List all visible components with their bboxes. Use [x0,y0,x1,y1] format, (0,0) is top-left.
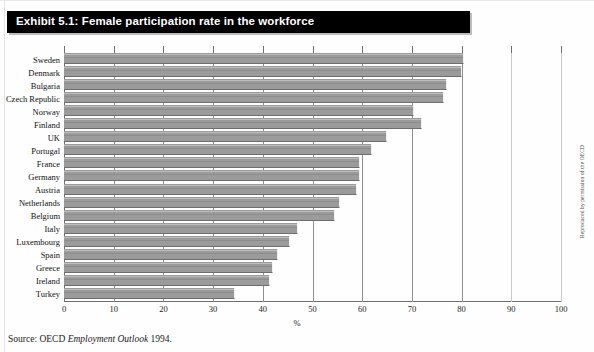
bar-shade [64,148,371,149]
bar-highlight [64,145,371,146]
x-tick-label-10: 10 [109,304,118,314]
bar-shade [64,135,386,136]
category-label-denmark: Denmark [0,68,60,78]
category-label-greece: Greece [0,263,60,273]
bar-highlight [64,80,446,81]
bar-shade [64,214,334,215]
bar-row[interactable] [64,262,273,273]
bar-shade [64,188,356,189]
bar-row[interactable] [64,249,278,260]
x-tick-label-0: 0 [62,304,66,314]
bar-row[interactable] [64,53,464,64]
category-label-bulgaria: Bulgaria [0,81,60,91]
x-tick-label-60: 60 [358,304,367,314]
bar-bulgaria[interactable] [64,79,447,90]
bar-shade [64,240,289,241]
x-tick-80 [462,46,463,53]
bar-austria[interactable] [64,184,357,195]
x-tick-label-80: 80 [457,304,466,314]
bar-row[interactable] [64,197,340,208]
bar-highlight [64,54,463,55]
x-tick-20 [163,46,164,53]
bar-norway[interactable] [64,105,414,116]
x-tick-100 [561,46,562,53]
x-tick-90 [511,46,512,53]
bar-germany[interactable] [64,170,360,181]
gridline-80 [462,52,463,302]
category-label-norway: Norway [0,107,60,117]
category-label-netherlands: Netherlands [0,198,60,208]
bar-row[interactable] [64,170,360,181]
bar-shade [64,109,413,110]
bar-highlight [64,224,297,225]
category-label-spain: Spain [0,250,60,260]
bar-row[interactable] [64,184,357,195]
bar-highlight [64,237,289,238]
bar-row[interactable] [64,144,372,155]
bar-netherlands[interactable] [64,197,340,208]
bar-spain[interactable] [64,249,278,260]
x-tick-label-70: 70 [408,304,417,314]
source-note: Source: OECD Employment Outlook 1994. [8,334,172,344]
bar-row[interactable] [64,118,422,129]
bar-row[interactable] [64,236,290,247]
bar-luxembourg[interactable] [64,236,290,247]
category-label-italy: Italy [0,224,60,234]
bar-finland[interactable] [64,118,422,129]
bar-sweden[interactable] [64,53,464,64]
bar-highlight [64,93,443,94]
source-prefix: Source: OECD [8,334,68,344]
bar-shade [64,253,277,254]
bar-shade [64,266,272,267]
bar-row[interactable] [64,105,414,116]
bar-highlight [64,250,277,251]
bar-greece[interactable] [64,262,273,273]
bar-czech-republic[interactable] [64,92,444,103]
bar-ireland[interactable] [64,275,270,286]
bar-row[interactable] [64,157,360,168]
category-label-germany: Germany [0,172,60,182]
bar-shade [64,96,443,97]
bar-belgium[interactable] [64,210,335,221]
x-tick-70 [412,46,413,53]
bar-highlight [64,263,272,264]
bar-highlight [64,132,386,133]
bar-row[interactable] [64,210,335,221]
gridline-90 [511,52,512,302]
bar-denmark[interactable] [64,66,462,77]
x-tick-label-50: 50 [308,304,317,314]
bar-shade [64,83,446,84]
category-label-austria: Austria [0,185,60,195]
source-year: 1994. [148,334,172,344]
category-label-uk: UK [0,133,60,143]
bar-shade [64,292,234,293]
category-label-turkey: Turkey [0,289,60,299]
category-label-finland: Finland [0,120,60,130]
bar-turkey[interactable] [64,288,235,299]
bar-italy[interactable] [64,223,298,234]
category-label-belgium: Belgium [0,211,60,221]
bar-row[interactable] [64,131,387,142]
bar-highlight [64,289,234,290]
x-tick-label-20: 20 [159,304,168,314]
bar-row[interactable] [64,79,447,90]
bar-shade [64,201,339,202]
bar-row[interactable] [64,223,298,234]
bar-shade [64,227,297,228]
x-tick-label-100: 100 [555,304,568,314]
x-tick-50 [313,46,314,53]
bar-shade [64,122,421,123]
bar-france[interactable] [64,157,360,168]
bar-uk[interactable] [64,131,387,142]
category-label-france: France [0,159,60,169]
bar-shade [64,279,269,280]
category-label-portugal: Portugal [0,146,60,156]
bar-row[interactable] [64,275,270,286]
bar-row[interactable] [64,92,444,103]
bar-row[interactable] [64,288,235,299]
bar-row[interactable] [64,66,462,77]
x-tick-60 [362,46,363,53]
bar-portugal[interactable] [64,144,372,155]
bar-highlight [64,171,359,172]
permission-credit: Reproduced by permission of the OECD [579,145,585,238]
